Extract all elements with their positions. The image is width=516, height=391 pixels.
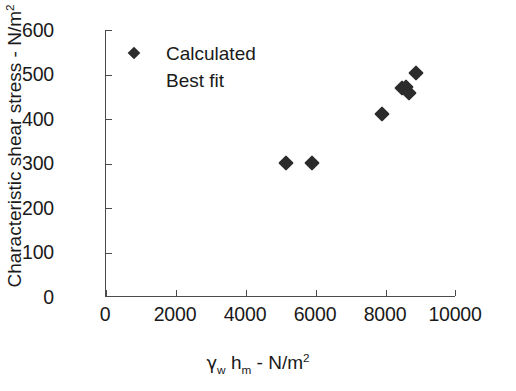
legend-label-best-fit: Best fit: [166, 67, 224, 94]
h-symbol: h: [231, 352, 242, 373]
y-tick-label-400: 400: [0, 110, 54, 130]
x-title-unit-superscript: 2: [303, 351, 310, 364]
y-tick-label-200: 200: [0, 199, 54, 219]
x-tick-mark-10000: [455, 290, 456, 296]
x-tick-label-4000: 4000: [224, 305, 267, 325]
legend-label-calculated: Calculated: [166, 40, 256, 67]
chart-root: Characteristic shear stress - N/m2 600 5…: [0, 0, 516, 391]
y-tick-mark-0: [106, 296, 112, 297]
plot-frame: [105, 30, 455, 297]
x-tick-label-10000: 10000: [428, 305, 481, 325]
data-point: [374, 106, 390, 122]
y-tick-label-100: 100: [0, 243, 54, 263]
x-title-unit: N/m: [268, 352, 303, 373]
x-tick-label-8000: 8000: [364, 305, 407, 325]
gamma-subscript: w: [217, 363, 226, 376]
data-point: [408, 65, 424, 81]
data-point: [304, 155, 320, 171]
x-axis-title: γw hm - N/m2: [0, 352, 516, 374]
gamma-symbol: γ: [206, 352, 217, 373]
data-series-calculated: [106, 30, 455, 296]
y-tick-label-500: 500: [0, 65, 54, 85]
y-tick-label-0: 0: [0, 288, 54, 308]
y-tick-label-600: 600: [0, 21, 54, 41]
x-tick-label-0: 0: [100, 305, 111, 325]
y-axis-title-superscript: 2: [3, 4, 16, 11]
x-tick-label-6000: 6000: [294, 305, 337, 325]
data-point: [278, 155, 294, 171]
x-tick-label-2000: 2000: [154, 305, 197, 325]
y-tick-label-300: 300: [0, 154, 54, 174]
h-subscript: m: [241, 363, 251, 376]
